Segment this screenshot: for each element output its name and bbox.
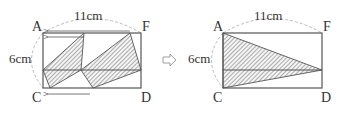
vertex-label-C: C [213, 90, 222, 105]
dashed-arc-left [212, 33, 224, 88]
vertex-label-A: A [32, 19, 43, 34]
vertex-label-D: D [321, 90, 331, 105]
hatched-shape-left [43, 33, 84, 88]
vertex-label-C: C [32, 90, 41, 105]
transition-arrow-icon [163, 54, 176, 66]
height-label: 6cm [9, 51, 31, 66]
width-label: 11cm [254, 8, 282, 23]
width-label: 11cm [74, 8, 102, 23]
hatched-shape-right [81, 33, 141, 88]
vertex-label-A: A [213, 19, 224, 34]
right-panel: A F C D 11cm 6cm [188, 8, 331, 105]
dashed-arc-left [32, 33, 44, 88]
height-label: 6cm [188, 51, 210, 66]
hatched-triangle [223, 33, 322, 88]
vertex-label-F: F [142, 19, 150, 34]
left-panel: A F C D 11cm 6cm [9, 8, 151, 105]
vertex-label-D: D [141, 90, 151, 105]
vertex-label-F: F [323, 19, 331, 34]
figure-canvas: A F C D 11cm 6cm A F C D 11cm 6cm [0, 0, 341, 122]
